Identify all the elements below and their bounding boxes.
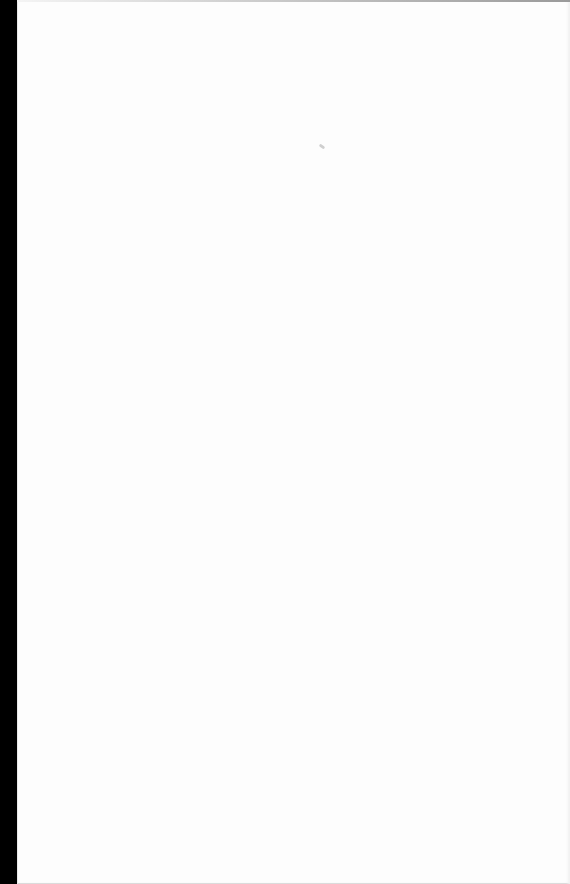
scan-left-border [0, 0, 17, 884]
scan-viewport [0, 0, 570, 884]
document-page [17, 0, 570, 884]
scan-speck-artifact [319, 144, 326, 150]
page-top-edge-shadow [17, 0, 570, 2]
